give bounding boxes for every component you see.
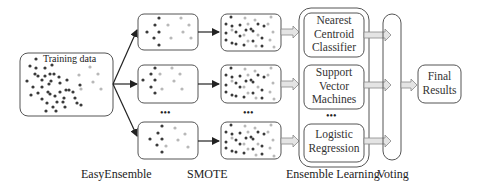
wide-arrows-to-classifiers [281, 26, 299, 147]
easyensemble-subset-3 [138, 122, 198, 159]
pipeline-diagram [0, 0, 480, 188]
training-data-label: Training data [43, 53, 96, 64]
smote-ellipsis: ••• [243, 107, 254, 118]
wide-arrows-to-voting [364, 29, 391, 147]
smote-subset-1 [221, 14, 281, 51]
easyensemble-subset-2 [138, 65, 198, 103]
ensemble-ellipsis: ••• [326, 110, 337, 121]
stage-label-voting: Voting [377, 167, 409, 182]
classifier-label-svm: Support Vector Machines [304, 66, 364, 107]
smote-subset-2 [221, 65, 281, 103]
easyensemble-ellipsis: ••• [160, 107, 171, 118]
stage-label-ensemble-learning: Ensemble Learning [286, 167, 380, 182]
smote-subset-3 [221, 122, 281, 159]
stage-label-easyensemble: EasyEnsemble [81, 167, 152, 182]
easyensemble-arrows [113, 30, 137, 136]
easyensemble-subset-1 [138, 14, 198, 50]
stage-label-smote: SMOTE [187, 167, 228, 182]
smote-arrows [198, 32, 219, 141]
wide-arrow-to-final [401, 79, 417, 91]
classifier-label-logistic-regression: Logistic Regression [304, 128, 364, 155]
classifier-label-nearest-centroid: Nearest Centroid Classifier [304, 14, 364, 55]
final-results-label: Final Results [418, 70, 461, 97]
